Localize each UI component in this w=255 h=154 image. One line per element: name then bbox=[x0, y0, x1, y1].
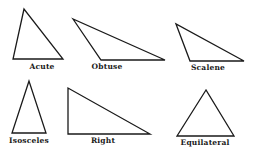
scalene-triangle bbox=[176, 24, 244, 61]
scalene-label: Scalene bbox=[191, 63, 225, 72]
right-label: Right bbox=[91, 136, 115, 145]
triangle-types-diagram bbox=[0, 0, 255, 154]
right-triangle bbox=[68, 88, 150, 134]
isosceles-label: Isosceles bbox=[9, 136, 49, 145]
obtuse-triangle bbox=[73, 19, 165, 60]
obtuse-label: Obtuse bbox=[92, 62, 123, 71]
acute-triangle bbox=[13, 9, 63, 59]
equilateral-triangle bbox=[177, 90, 234, 136]
isosceles-triangle bbox=[12, 81, 46, 133]
acute-label: Acute bbox=[29, 62, 54, 71]
equilateral-label: Equilateral bbox=[180, 138, 229, 147]
